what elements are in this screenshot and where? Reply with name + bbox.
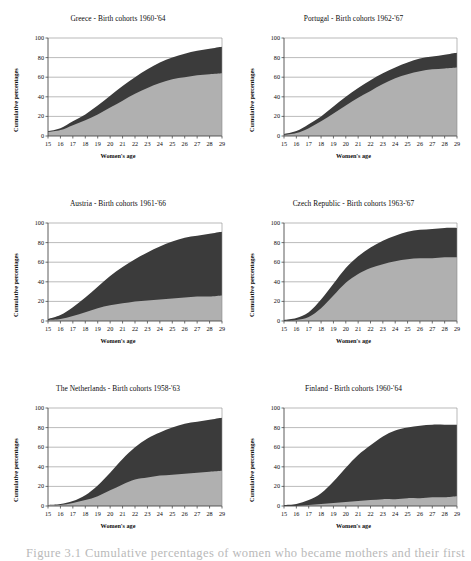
y-axis-label: Cumulative percentages <box>12 253 19 317</box>
y-tick-label: 60 <box>254 443 280 450</box>
x-axis-label: Women's age <box>236 152 471 159</box>
y-tick-label: 0 <box>254 502 280 509</box>
y-tick-label: 80 <box>254 54 280 61</box>
figure-caption-text: Figure 3.1 Cumulative percentages of wom… <box>26 548 465 561</box>
y-tick-label: 60 <box>18 443 44 450</box>
y-axis-label: Cumulative percentages <box>248 253 255 317</box>
y-tick-label: 0 <box>254 317 280 324</box>
y-tick-label: 0 <box>18 502 44 509</box>
chart-the-netherlands: The Netherlands - Birth cohorts 1958-'63… <box>0 370 236 548</box>
y-tick-label: 40 <box>18 278 44 285</box>
y-tick-label: 80 <box>18 54 44 61</box>
x-axis-label: Women's age <box>0 152 236 159</box>
y-tick-label: 100 <box>18 404 44 411</box>
y-tick-label: 80 <box>18 239 44 246</box>
x-axis-label: Women's age <box>0 337 236 344</box>
y-tick-label: 0 <box>18 132 44 139</box>
y-tick-label: 20 <box>18 482 44 489</box>
y-tick-label: 20 <box>18 112 44 119</box>
x-axis-label: Women's age <box>236 522 471 529</box>
y-axis-label: Cumulative percentages <box>12 68 19 132</box>
x-tick-label: 29 <box>450 140 464 147</box>
x-axis-label: Women's age <box>236 337 471 344</box>
x-tick-label: 29 <box>215 510 229 517</box>
chart-czech-republic: Czech Republic - Birth cohorts 1963-'670… <box>236 185 471 370</box>
figure-chart-grid: Greece - Birth cohorts 1960-'64020406080… <box>0 0 471 548</box>
y-tick-label: 80 <box>254 424 280 431</box>
y-tick-label: 40 <box>18 93 44 100</box>
y-tick-label: 60 <box>18 73 44 80</box>
y-tick-label: 20 <box>254 112 280 119</box>
x-axis-label: Women's age <box>0 522 236 529</box>
y-tick-label: 100 <box>254 34 280 41</box>
y-tick-label: 100 <box>18 34 44 41</box>
y-tick-label: 100 <box>18 219 44 226</box>
y-tick-label: 80 <box>254 239 280 246</box>
y-tick-label: 60 <box>254 258 280 265</box>
chart-greece: Greece - Birth cohorts 1960-'64020406080… <box>0 0 236 185</box>
x-tick-label: 29 <box>450 510 464 517</box>
y-tick-label: 60 <box>18 258 44 265</box>
x-tick-label: 29 <box>215 140 229 147</box>
y-tick-label: 40 <box>254 278 280 285</box>
y-tick-label: 20 <box>254 297 280 304</box>
figure-caption: Figure 3.1 Cumulative percentages of wom… <box>0 548 471 561</box>
y-axis-label: Cumulative percentages <box>248 438 255 502</box>
x-tick-label: 29 <box>450 325 464 332</box>
y-axis-label: Cumulative percentages <box>12 438 19 502</box>
y-tick-label: 20 <box>18 297 44 304</box>
y-tick-label: 40 <box>18 463 44 470</box>
y-tick-label: 60 <box>254 73 280 80</box>
chart-finland: Finland - Birth cohorts 1960-'6402040608… <box>236 370 471 548</box>
y-tick-label: 0 <box>254 132 280 139</box>
y-tick-label: 80 <box>18 424 44 431</box>
y-axis-label: Cumulative percentages <box>248 68 255 132</box>
y-tick-label: 20 <box>254 482 280 489</box>
chart-austria: Austria - Birth cohorts 1961-'6602040608… <box>0 185 236 370</box>
y-tick-label: 40 <box>254 93 280 100</box>
y-tick-label: 100 <box>254 404 280 411</box>
y-tick-label: 0 <box>18 317 44 324</box>
y-tick-label: 40 <box>254 463 280 470</box>
chart-portugal: Portugal - Birth cohorts 1962-'670204060… <box>236 0 471 185</box>
x-tick-label: 29 <box>215 325 229 332</box>
y-tick-label: 100 <box>254 219 280 226</box>
